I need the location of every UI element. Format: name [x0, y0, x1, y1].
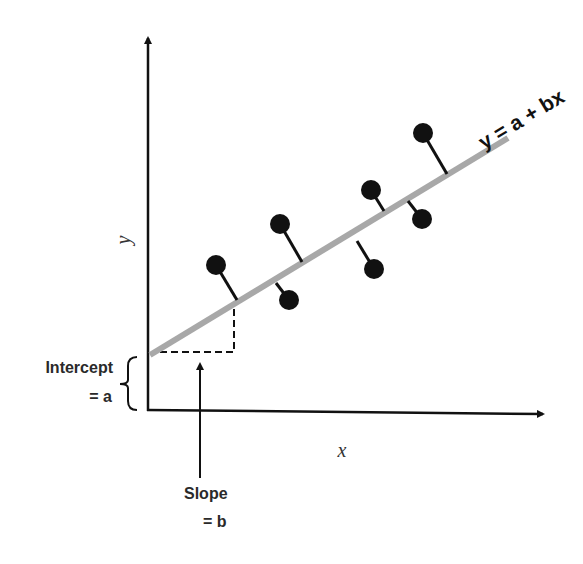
- regression-diagram: y = a + bx y x Intercept = a Slope = b: [0, 0, 583, 564]
- data-points: [206, 123, 447, 310]
- equation-label: y = a + bx: [474, 84, 568, 153]
- data-point: [270, 214, 290, 234]
- intercept-label-line2: = a: [89, 388, 112, 405]
- intercept-label-line1: Intercept: [45, 359, 113, 376]
- data-point: [361, 180, 381, 200]
- x-axis: [147, 410, 543, 414]
- intercept-brace: [120, 357, 137, 410]
- slope-label-line2: = b: [203, 513, 227, 530]
- x-axis-label: x: [337, 439, 347, 461]
- data-point: [413, 123, 433, 143]
- data-point: [412, 209, 432, 229]
- data-point: [206, 255, 226, 275]
- data-point: [364, 259, 384, 279]
- regression-line: [150, 138, 508, 355]
- slope-label-line1: Slope: [184, 485, 228, 502]
- data-point: [279, 290, 299, 310]
- y-axis-label: y: [112, 235, 135, 246]
